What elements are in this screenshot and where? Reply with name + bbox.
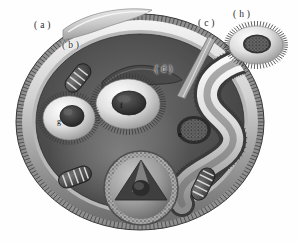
label-b: ( b ): [62, 40, 79, 50]
label-a: ( a ): [34, 20, 51, 30]
label-f: f: [120, 101, 123, 110]
figure-canvas: ( a ) ( b ) ( c ) ( d ) e f g ( h ): [0, 0, 299, 242]
granular-core-vesicle: [177, 116, 211, 144]
label-d: ( d ): [155, 64, 172, 74]
label-c: ( c ): [198, 18, 215, 28]
label-g: g: [57, 117, 61, 126]
triangular-core-body: [104, 151, 178, 225]
cell-diagram-svg: [0, 0, 299, 242]
left-ring-organelle: [38, 91, 100, 145]
label-h: ( h ): [233, 9, 250, 19]
label-e: e: [178, 130, 182, 139]
